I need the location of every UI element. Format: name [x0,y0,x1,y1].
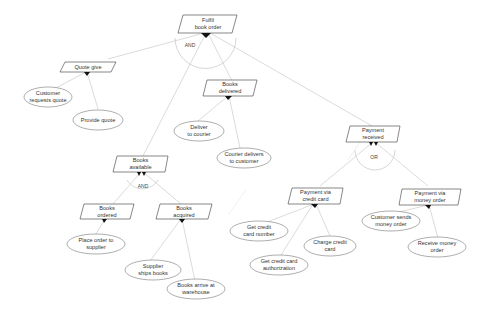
goal-label-line2: acquired [173,212,194,219]
arrow-payment-1 [369,142,373,146]
goal-label-line2: received [362,134,384,141]
task-label-line1: Customer sends [371,214,412,221]
goal-label-line2: available [129,164,151,171]
task-label-line1: Get credit [243,224,274,231]
operator-and-top: AND [180,42,200,48]
task-label-line1: Provide quote [81,117,116,124]
operator-and-available: AND [133,183,153,189]
goal-label-line2: book order [195,24,222,31]
arrow-quote [84,72,90,76]
goal-label-line1: Quote give [74,64,101,71]
task-receive-money-order[interactable]: Receive moneyorder [408,237,466,257]
task-label-line1: Customer [29,90,66,97]
task-label-line1: Receive money [418,240,457,247]
task-label-line2: warehouse [177,289,214,296]
goal-label-line1: Books [129,157,151,164]
task-label-line1: Place order to [79,237,114,244]
task-label-line2: to customer [224,158,263,165]
goal-label-line1: Books [173,205,194,212]
task-label-line2: card [313,246,347,253]
goal-payment-received[interactable]: Paymentreceived [348,126,398,142]
task-label-line1: Charge credit [313,239,347,246]
goal-label-line2: delivered [219,88,242,95]
task-label-line1: Courier delivers [224,151,263,158]
task-label-line1: Deliver [187,124,210,131]
goal-label-line1: Payment via [300,189,331,196]
task-label-line2: authorization [261,265,298,272]
goal-fulfil-book-order[interactable]: Fulfilbook order [180,15,236,33]
task-label-line1: Books arrive at [177,282,214,289]
task-get-credit-card-authorization[interactable]: Get credit cardauthorization [250,255,308,275]
task-customer-sends-money-order[interactable]: Customer sendsmoney order [362,211,420,231]
task-label-line1: Supplier [138,263,168,270]
goal-label-line1: Payment via [414,190,445,197]
task-label-line2: supplier [79,244,114,251]
task-courier-delivers-to-customer[interactable]: Courier deliversto customer [217,148,271,168]
goal-label-line2: ordered [97,212,116,219]
goal-label-line2: money order [414,197,445,204]
task-place-order-to-supplier[interactable]: Place order tosupplier [67,234,125,254]
task-label-line2: requests quote [29,97,66,104]
task-get-credit-card-number[interactable]: Get creditcard number [230,221,288,241]
goal-books-available[interactable]: Booksavailable [115,156,166,172]
goal-books-delivered[interactable]: Booksdelivered [205,80,255,96]
goal-books-ordered[interactable]: Booksordered [82,204,132,219]
task-label-line1: Get credit card [261,258,298,265]
task-label-line2: ships books [138,270,168,277]
task-deliver-to-courier[interactable]: Deliverto courier [174,121,224,141]
task-supplier-ships-books[interactable]: Supplierships books [125,260,181,280]
goal-label-line1: Payment [362,127,384,134]
goal-label-line1: Books [97,205,116,212]
operator-or-payment: OR [366,154,382,160]
task-label-line2: card number [243,231,274,238]
goal-payment-via-money-order[interactable]: Payment viamoney order [401,189,459,205]
task-customer-requests-quote[interactable]: Customerrequests quote [24,87,72,107]
task-label-line2: to courier [187,131,210,138]
task-label-line2: order [418,247,457,254]
goal-quote-give[interactable]: Quote give [62,62,114,72]
task-books-arrive-at-warehouse[interactable]: Books arrive atwarehouse [167,279,225,299]
goal-label-line1: Fulfil [195,17,222,24]
task-provide-quote[interactable]: Provide quote [73,110,123,130]
goal-diagram-canvas: AND AND OR Fulfilbook order Quote give B… [0,0,487,315]
goal-books-acquired[interactable]: Booksacquired [158,204,210,219]
task-charge-credit-card[interactable]: Charge creditcard [304,236,356,256]
goal-label-line1: Books [219,81,242,88]
task-label-line2: money order [371,221,412,228]
goal-payment-via-credit-card[interactable]: Payment viacredit card [290,188,341,204]
goal-label-line2: credit card [300,196,331,203]
